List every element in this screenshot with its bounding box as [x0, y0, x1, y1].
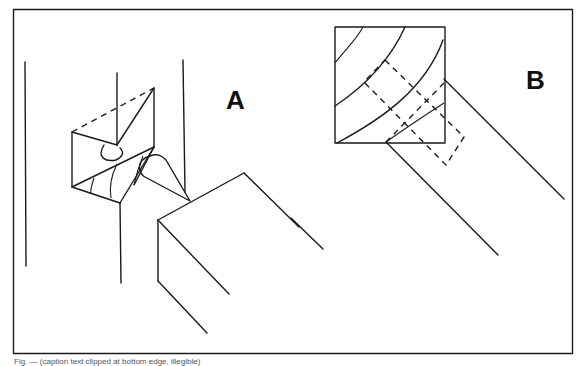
- hole-curve: [101, 145, 122, 160]
- inner-vertical-right: [183, 60, 185, 192]
- grain-line: [110, 164, 117, 198]
- block-edge: [72, 187, 120, 203]
- post-edge: [120, 203, 121, 283]
- grain-line: [91, 178, 94, 194]
- panel-label-a: A: [226, 87, 245, 113]
- panel-a-drawing: [25, 60, 299, 333]
- tool-edge: [158, 173, 244, 220]
- square-block: [335, 27, 445, 143]
- hidden-mortise: [364, 60, 464, 165]
- tool-edge: [158, 281, 207, 333]
- tool-edge: [291, 218, 323, 249]
- panel-label-b: B: [526, 67, 545, 93]
- grain-line: [337, 40, 443, 143]
- block-edge: [134, 147, 154, 185]
- left-outer-edge: [25, 62, 26, 266]
- grain-line: [335, 27, 363, 63]
- tool-edge: [386, 142, 498, 255]
- drill-bit: [140, 155, 190, 201]
- figure-frame: [14, 10, 573, 354]
- grain-line: [335, 27, 405, 106]
- block-hidden-edge: [72, 88, 154, 132]
- tool-edge: [158, 220, 229, 294]
- figure-caption: Fig. — (caption text clipped at bottom e…: [14, 357, 200, 366]
- panel-b-drawing: [291, 27, 564, 255]
- block-edge: [117, 88, 154, 145]
- tool-edge: [244, 173, 299, 227]
- block-edge: [72, 132, 117, 145]
- tool-edge: [386, 142, 423, 248]
